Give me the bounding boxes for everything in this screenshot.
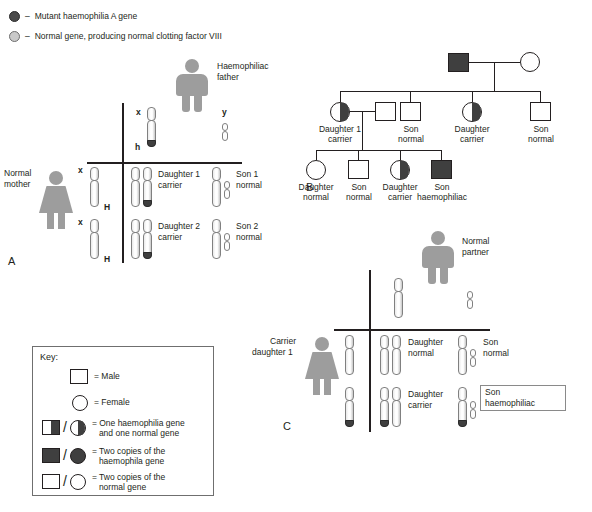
pedigree-g3-drop-1 [316,150,317,160]
panel-c-letter: C [283,420,291,432]
key-slash-separator: / [60,473,70,489]
panel-a-father-label-line2: father [217,73,239,83]
pedigree-g1-descent-line [494,62,495,92]
key-entry-carrier: / = One haemophilia gene and one normal … [42,419,185,438]
panel-c-son-haemophiliac-callout-box: Son haemophiliac [480,385,566,411]
gene-legend-mutant-label: Mutant haemophilia A gene [35,12,138,22]
pedigree-g2-daughter-carrier-label-line2: carrier [440,135,504,145]
panel-a-offspring-daughter1-line2: carrier [158,181,182,191]
panel-a-mother-x2-chromosome [90,219,99,266]
key-circle-open-icon [72,395,88,411]
panel-c-mother-figure [302,337,342,393]
pedigree-g2-daughter1-carrier[interactable] [330,102,350,122]
pedigree-g2-son-normal-1-label-line2: normal [380,135,442,145]
pedigree-g3-drop-4 [441,150,442,160]
panel-a-mother-figure [36,171,76,227]
panel-a-letter: A [8,255,15,267]
panel-c-offspring-daughter-carrier-line1: Daughter [408,390,443,400]
panel-c-father-label-line2: partner [462,248,489,258]
key-square-open-icon [70,369,88,384]
key-slash-separator: / [60,419,70,435]
panel-c-mother-x1-chromosome [345,335,354,382]
key-box: Key: = Male = Female / = One haemophilia… [32,346,214,496]
key-entry-affected-text-line2: haemophila gene [99,457,165,467]
panel-a-son2-x-chromosome [212,219,221,266]
panel-b: Daughter 1 carrier Son normal Daughter c… [300,40,592,220]
panel-a-father-label-line1: Haemophiliac [217,62,269,72]
key-entry-female: = Female [72,395,130,411]
panel-c-offspring-son-normal-line2: normal [483,349,509,359]
pedigree-g2-son-normal-2[interactable] [530,102,551,121]
pedigree-g2-son-normal-2-label-line2: normal [510,135,572,145]
panel-a-daughter1-chromosome-maternal [131,167,140,214]
key-entry-normal-text-line2: normal gene [99,483,165,493]
panel-a-mother-h1-gene-label: H [104,203,110,213]
gene-legend-normal: – Normal gene, producing normal clotting… [9,31,222,42]
mutant-gene-tip [143,200,152,207]
panel-a-mother-label-line2: mother [4,180,30,190]
panel-a-father-figure [172,59,212,111]
panel-a-father-y-chromosome [222,123,228,141]
key-title: Key: [40,353,213,363]
panel-a-offspring-son1-line1: Son 1 [236,170,258,180]
pedigree-g3-son-normal[interactable] [348,160,369,179]
normal-gene-dot [9,31,20,42]
panel-c-daughter-carrier-chr-maternal [380,387,389,434]
panel-c-father-figure [418,231,458,283]
pedigree-g2-drop-4 [540,91,541,102]
key-square-half-icon [42,420,60,435]
panel-c-daughter-carrier-chr-paternal [392,387,401,434]
panel-a-offspring-daughter2-line1: Daughter 2 [158,222,200,232]
panel-c-offspring-daughter-carrier-line2: carrier [408,401,432,411]
panel-a-mother-x1-chromosome [90,167,99,214]
panel-c-son-normal-x-chromosome [458,335,467,382]
key-square-open-icon [42,474,60,489]
pedigree-g2-daughter-carrier[interactable] [462,102,482,122]
panel-c-mother-label-line1: Carrier [270,337,296,347]
key-entry-male-text: = Male [94,372,120,382]
pedigree-g2-son-normal-1[interactable] [400,102,421,121]
panel-c-father-label-line1: Normal [462,237,489,247]
panel-a-vertical-axis [122,103,124,263]
panel-a-horizontal-axis [87,162,242,164]
panel-a-father-x-allele-label: x [136,108,141,118]
pedigree-g2-drop-2 [410,91,411,102]
pedigree-g3-drop-2 [358,150,359,160]
key-entry-male: = Male [70,369,120,384]
panel-c-son-haemophiliac-y-chromosome [470,401,476,419]
panel-c: Normal partner Carrier daughter 1 Daught… [230,225,592,455]
panel-c-mother-x2-chromosome [345,387,354,434]
panel-a-mother-x2-allele-label: x [78,218,83,228]
mutant-gene-tip [147,140,156,147]
pedigree-g3-drop-3 [400,150,401,160]
pedigree-g1-father[interactable] [448,53,469,72]
key-circle-full-icon [70,448,86,464]
gene-legend-normal-dash: – [25,32,30,42]
pedigree-g3-daughter-normal[interactable] [306,160,326,180]
pedigree-g3-sibship-line [316,150,441,151]
pedigree-g1-mother[interactable] [520,52,540,72]
panel-a-son1-x-chromosome [212,167,221,214]
key-entry-normal: / = Two copies of the normal gene [42,473,165,492]
pedigree-g3-son-haemophiliac[interactable] [431,160,452,179]
key-entry-carrier-text-line2: and one normal gene [99,429,185,439]
panel-a-father-x-chromosome [147,107,156,154]
panel-c-father-x-chromosome [394,278,403,325]
pedigree-g2-daughter1-partner[interactable] [375,102,396,121]
panel-a-mother-label-line1: Normal [4,169,31,179]
pedigree-g2-drop-1 [340,91,341,102]
panel-a-mother-x1-allele-label: x [78,166,83,176]
panel-a-offspring-daughter1-line1: Daughter 1 [158,170,200,180]
pedigree-g2-sibship-line [340,91,540,92]
pedigree-g3-daughter-carrier[interactable] [390,160,410,180]
key-entry-affected: / = Two copies of the haemophila gene [42,447,165,466]
key-square-full-icon [42,448,60,463]
pedigree-g2-drop-3 [472,91,473,102]
panel-c-offspring-son-normal-line1: Son [483,338,498,348]
panel-a-father-y-allele-label: y [222,108,227,118]
panel-c-vertical-axis [369,270,371,432]
mutant-gene-tip [458,420,467,427]
panel-c-father-y-chromosome [467,291,473,309]
gene-legend-normal-label: Normal gene, producing normal clotting f… [35,32,222,42]
key-entry-female-text: = Female [94,398,130,408]
